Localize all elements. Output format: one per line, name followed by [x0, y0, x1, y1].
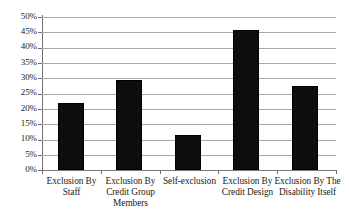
y-axis-tick-label: 25%	[3, 88, 37, 97]
bar-exclusion-by-staff[interactable]	[58, 103, 84, 170]
gridline	[42, 78, 336, 79]
y-axis-labels: 50% 45% 40% 35% 30% 25% 20% 15% 10% 5% 0…	[0, 0, 37, 217]
gridline	[42, 17, 336, 18]
y-axis-tick-label: 10%	[3, 134, 37, 143]
x-axis-tick-mark	[277, 170, 278, 174]
x-axis-category-label-disability-itself: Exclusion By The Disability Itself	[272, 176, 343, 198]
y-axis-tick-label: 40%	[3, 42, 37, 51]
y-axis-tick-label: 15%	[3, 119, 37, 128]
x-axis-tick-mark	[160, 170, 161, 174]
gridline	[42, 63, 336, 64]
gridline	[42, 32, 336, 33]
x-axis-baseline	[42, 170, 336, 171]
y-axis-tick-label: 0%	[3, 165, 37, 174]
y-axis-tick-label: 30%	[3, 73, 37, 82]
y-axis-tick-label: 5%	[3, 150, 37, 159]
plot-area	[42, 17, 336, 170]
x-axis-tick-mark	[218, 170, 219, 174]
y-axis-tick-label: 45%	[3, 27, 37, 36]
x-axis-tick-mark	[336, 170, 337, 174]
bar-exclusion-by-credit-design[interactable]	[233, 30, 259, 170]
x-axis-tick-mark	[101, 170, 102, 174]
x-axis-category-labels: Exclusion By Staff Exclusion By Credit G…	[42, 176, 349, 217]
bar-self-exclusion[interactable]	[175, 135, 201, 170]
y-axis-tick-label: 50%	[3, 12, 37, 21]
gridline	[42, 48, 336, 49]
x-axis-tick-mark	[42, 170, 43, 174]
bar-exclusion-by-the-disability-itself[interactable]	[292, 86, 318, 170]
bar-exclusion-by-credit-group-members[interactable]	[116, 80, 142, 170]
y-axis-tick-label: 35%	[3, 58, 37, 67]
y-axis-tick-label: 20%	[3, 104, 37, 113]
bar-chart: 50% 45% 40% 35% 30% 25% 20% 15% 10% 5% 0…	[0, 0, 349, 217]
